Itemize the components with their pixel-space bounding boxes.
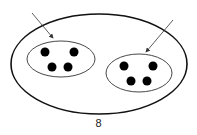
left-subset-ellipse (27, 41, 95, 77)
left-arrow-icon (32, 13, 53, 38)
right-subset-ellipse (106, 54, 172, 92)
right-arrow-icon (146, 20, 173, 52)
figure-caption: 8 (0, 117, 197, 129)
set-diagram (0, 0, 197, 135)
right-dots (120, 62, 158, 86)
outer-set-ellipse (11, 14, 187, 114)
left-dots (41, 48, 79, 72)
